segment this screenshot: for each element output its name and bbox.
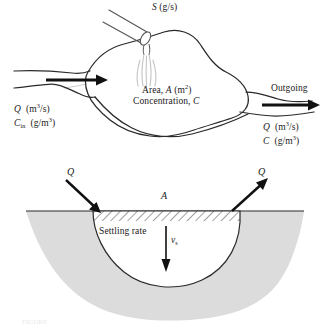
cross-section-inflow-label: Q — [67, 166, 74, 178]
figure-root: S (g/s) Area, A (m2) Concentration, C Q … — [0, 0, 330, 330]
settling-velocity-label: vs — [171, 235, 178, 246]
cross-section-outflow-arrow — [232, 178, 268, 211]
surface-area-hatch — [93, 211, 240, 221]
surface-area-label: A — [161, 190, 167, 202]
cross-section-inflow-arrow — [66, 180, 101, 213]
settling-rate-label: Settling rate — [99, 226, 146, 237]
caption-strip: FIGURE — [0, 316, 330, 330]
cross-section-outflow-label: Q — [258, 166, 265, 178]
figure-caption: FIGURE — [22, 318, 47, 326]
cross-section-graphics — [0, 0, 330, 330]
